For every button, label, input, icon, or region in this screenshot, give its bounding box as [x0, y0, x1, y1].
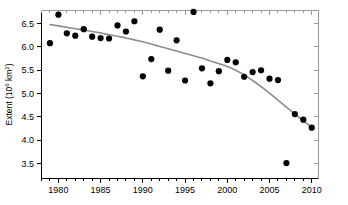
- y-axis-ticks: [37, 24, 42, 164]
- x-tick-label: 2010: [302, 185, 322, 195]
- chart-figure: 1980198519901995200020052010 3.54.04.55.…: [0, 0, 348, 205]
- y-tick-label: 4.0: [21, 135, 34, 145]
- data-point: [241, 74, 247, 80]
- trend-line-path: [50, 25, 312, 128]
- data-point: [106, 35, 112, 41]
- data-point: [64, 30, 70, 36]
- data-point: [216, 68, 222, 74]
- data-point: [140, 73, 146, 79]
- right-axis-ticks: [314, 24, 319, 164]
- data-points: [47, 9, 315, 166]
- x-axis-tick-labels: 1980198519901995200020052010: [48, 185, 321, 195]
- data-point: [148, 56, 154, 62]
- data-point: [266, 76, 272, 82]
- data-point: [165, 68, 171, 74]
- data-point: [98, 35, 104, 41]
- top-axis-ticks: [42, 11, 312, 16]
- y-axis-tick-labels: 3.54.04.55.05.56.06.5: [21, 19, 34, 169]
- x-tick-label: 2000: [217, 185, 237, 195]
- plot-frame: [42, 11, 319, 179]
- data-point: [309, 125, 315, 131]
- x-tick-label: 1980: [48, 185, 68, 195]
- data-point: [47, 40, 53, 46]
- data-point: [123, 28, 129, 34]
- data-point: [182, 77, 188, 83]
- data-point: [174, 37, 180, 43]
- data-point: [283, 160, 289, 166]
- data-point: [72, 33, 78, 39]
- data-point: [114, 22, 120, 28]
- y-tick-label: 4.5: [21, 112, 34, 122]
- trend-line: [50, 25, 312, 128]
- x-tick-label: 1995: [175, 185, 195, 195]
- data-point: [292, 111, 298, 117]
- y-tick-label: 3.5: [21, 159, 34, 169]
- data-point: [207, 80, 213, 86]
- data-point: [157, 27, 163, 33]
- x-tick-label: 2005: [260, 185, 280, 195]
- x-axis-ticks: [42, 179, 312, 184]
- data-point: [224, 57, 230, 63]
- data-point: [131, 18, 137, 24]
- y-tick-label: 6.0: [21, 42, 34, 52]
- x-tick-label: 1985: [91, 185, 111, 195]
- data-point: [89, 34, 95, 40]
- y-tick-label: 5.5: [21, 65, 34, 75]
- data-point: [81, 26, 87, 32]
- y-tick-label: 5.0: [21, 89, 34, 99]
- y-axis-title: Extent (106 km2): [4, 63, 14, 125]
- sea-ice-extent-scatter-plot: 1980198519901995200020052010 3.54.04.55.…: [0, 0, 348, 205]
- data-point: [233, 59, 239, 65]
- data-point: [300, 117, 306, 123]
- y-axis-title-text: Extent (106 km2): [4, 63, 14, 125]
- data-point: [199, 65, 205, 71]
- data-point: [275, 77, 281, 83]
- x-tick-label: 1990: [133, 185, 153, 195]
- y-tick-label: 6.5: [21, 19, 34, 29]
- data-point: [258, 67, 264, 73]
- data-point: [55, 12, 61, 18]
- data-point: [250, 69, 256, 75]
- data-point: [190, 9, 196, 15]
